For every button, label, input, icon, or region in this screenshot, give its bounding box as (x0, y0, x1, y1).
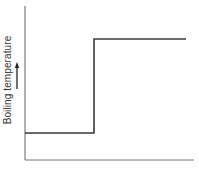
arrow-up-icon (15, 62, 19, 89)
step-line (25, 39, 186, 133)
step-chart (0, 0, 199, 172)
y-axis-label: Boiling temperature (2, 36, 13, 125)
